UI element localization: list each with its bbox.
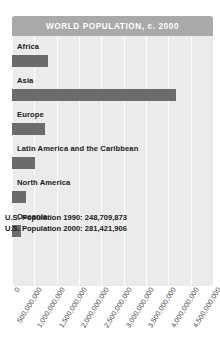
chart-annotations: U.S. Population 1990: 248,709,873 U.S. P… [5,212,127,234]
x-axis-tick-labels: 0500,000,0001,000,000,0001,500,000,0002,… [12,286,213,354]
bar-row: Latin America and the Caribbean [12,144,213,178]
bar-row: Africa [12,42,213,76]
bar [12,89,176,101]
bar-row: Asia [12,76,213,110]
bar-label: Europe [17,110,44,119]
bar [12,123,45,135]
plot-area: AfricaAsiaEuropeLatin America and the Ca… [12,36,213,286]
bar-label: Africa [17,42,39,51]
bar [12,55,48,67]
annotation-us-population-1990: U.S. Population 1990: 248,709,873 [5,212,127,223]
bar-label: Asia [17,76,33,85]
bar-label: Latin America and the Caribbean [17,144,138,153]
bar [12,191,26,203]
annotation-us-population-2000: U.S. Population 2000: 281,421,906 [5,223,127,234]
bar-label: North America [17,178,70,187]
world-population-bar-chart: WORLD POPULATION, c. 2000 AfricaAsiaEuro… [0,0,220,354]
chart-title-bar: WORLD POPULATION, c. 2000 [12,16,213,36]
page-title: WORLD POPULATION, c. 2000 [46,22,179,31]
bar [12,157,35,169]
axis-tick-label: 0 [13,286,21,293]
bar-row: North America [12,178,213,212]
bar-row: Europe [12,110,213,144]
